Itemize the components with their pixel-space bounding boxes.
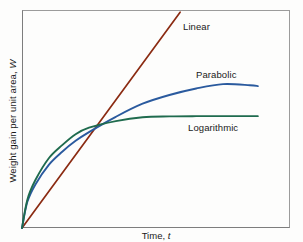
y-axis-title-text: Weight gain per unit area, — [7, 71, 18, 182]
y-axis-title: Weight gain per unit area, W — [4, 0, 22, 242]
plot-frame — [22, 10, 290, 228]
curve-label-linear: Linear — [183, 21, 210, 32]
y-axis-title-symbol: W — [7, 59, 18, 68]
x-axis-title: Time, t — [22, 230, 290, 241]
curve-label-logarithmic: Logarithmic — [188, 122, 238, 133]
x-axis-title-text: Time, — [142, 230, 165, 241]
x-axis-title-symbol: t — [168, 230, 171, 241]
figure-oxidation-kinetics: Linear Parabolic Logarithmic Weight gain… — [0, 0, 303, 242]
curve-label-parabolic: Parabolic — [196, 69, 237, 80]
